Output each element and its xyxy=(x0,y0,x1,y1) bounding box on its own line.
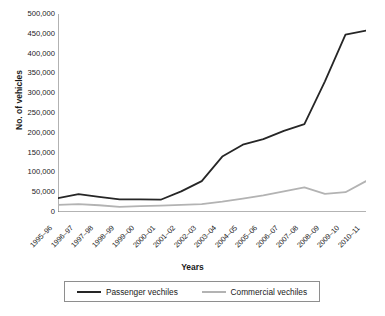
y-tick-label: 400,000 xyxy=(7,50,55,58)
x-axis-title: Years xyxy=(0,262,385,272)
series-line-passenger xyxy=(58,31,366,200)
legend-item[interactable]: Passenger vechiles xyxy=(77,287,178,297)
plot-area xyxy=(58,14,366,212)
y-tick-label: 100,000 xyxy=(7,168,55,176)
y-axis-tick-labels: 500,000450,000400,000350,000300,000250,0… xyxy=(4,0,55,216)
y-tick-label: 200,000 xyxy=(7,129,55,137)
chart-legend: Passenger vechilesCommercial vechiles xyxy=(64,281,320,302)
legend-item[interactable]: Commercial vechiles xyxy=(202,287,308,297)
x-tick-label: 1995–96 xyxy=(28,223,54,249)
y-tick-label: 250,000 xyxy=(7,109,55,117)
legend-line-icon xyxy=(202,291,226,293)
legend-label: Commercial vechiles xyxy=(231,287,308,297)
y-tick-label: 500,000 xyxy=(7,10,55,18)
legend-label: Passenger vechiles xyxy=(106,287,178,297)
y-tick-label: 450,000 xyxy=(7,30,55,38)
y-tick-label: 150,000 xyxy=(7,149,55,157)
y-tick-label: 50,000 xyxy=(7,188,55,196)
series-line-commercial xyxy=(58,181,366,207)
plot-svg xyxy=(58,14,366,212)
legend-line-icon xyxy=(77,291,101,293)
y-tick-label: 300,000 xyxy=(7,89,55,97)
x-axis-tick-labels: 1995–961996–971997–981998–991999–002000–… xyxy=(0,213,385,261)
line-chart: No. of vehicles 500,000450,000400,000350… xyxy=(0,0,385,316)
y-tick-label: 350,000 xyxy=(7,69,55,77)
